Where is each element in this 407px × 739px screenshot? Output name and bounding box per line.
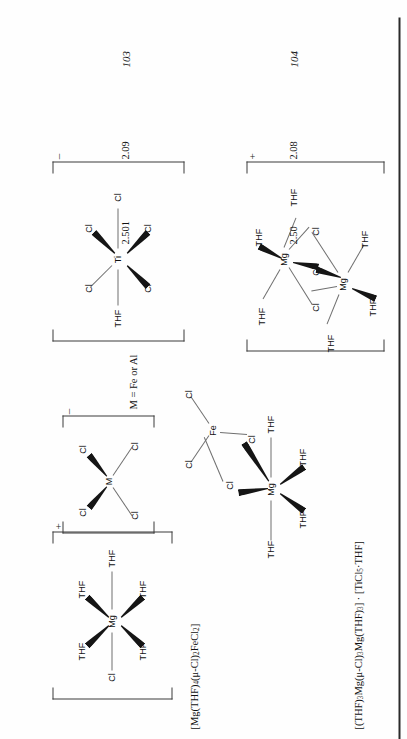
caption-compound-103: [Mg(THF)4(μ-Cl)2FeCl2] — [188, 623, 201, 729]
atom-thf-left-dimer-103: THF — [265, 540, 275, 558]
atom-cl-upper-right-103: Cl — [77, 445, 87, 454]
bond-fe-cl-terminal-left-103 — [190, 435, 209, 462]
atom-thf-right-dimer-103: THF — [265, 415, 275, 433]
bond-mgbottom-thf-left-104 — [326, 294, 339, 324]
atom-thf-bottom-down-104: THF — [367, 298, 377, 316]
bond-clbridge-right-fe-103 — [220, 432, 247, 435]
wedge-mgbottom-clb-104 — [315, 266, 342, 281]
atom-cl-lower-left-103: Cl — [129, 511, 139, 520]
bracket-left-anion-104 — [52, 329, 184, 341]
charge-minus-anion-104: – — [51, 153, 63, 159]
atom-cl-cation-103: Cl — [106, 673, 116, 682]
atom-cl-terminal-right-103: Cl — [183, 390, 193, 399]
atom-thf-axial-104: THF — [112, 309, 122, 327]
bond-ti-thf-axial-104 — [117, 269, 118, 305]
atom-cl-upper-left-103: Cl — [77, 508, 87, 517]
atom-cl-lower-right-104: Cl — [142, 224, 152, 233]
bond-mg-thf-left-dimer-103 — [270, 500, 271, 540]
rotated-page-canvas: + Mg Cl THF THF THF THF THF – M Cl Cl — [0, 0, 407, 739]
atom-cl-upper-right-104: Cl — [83, 224, 93, 233]
atom-thf-top-left-104: THF — [256, 307, 266, 325]
distance-104-1: 2.50 — [287, 226, 298, 244]
atom-thf-bottom-left-104: THF — [325, 334, 335, 352]
charge-plus-cation-104: + — [245, 153, 257, 159]
atom-cl-upper-left-104: Cl — [83, 284, 93, 293]
distance-104-2: 2.08 — [287, 141, 298, 159]
atom-thf-lower-right-dimer-103: THF — [297, 448, 307, 466]
page-bottom-rule — [398, 17, 400, 739]
atom-thf-lower-left-dimer-103: THF — [297, 510, 307, 528]
caption-103-text: [Mg(THF)4(μ-Cl)2FeCl2] — [188, 623, 199, 729]
atom-thf-upper-left-103: THF — [76, 642, 86, 660]
atom-cl-bridge-left-103: Cl — [224, 481, 234, 490]
wedge-mg-thf-lower-right-dimer-103 — [277, 464, 305, 487]
wedge-mgtop-clb-104 — [292, 259, 319, 270]
bond-clbridge-left-fe-103 — [203, 437, 223, 482]
compound-number-103: 103 — [119, 51, 131, 68]
distance-103-1: 2.501 — [119, 220, 130, 244]
atom-thf-lower-right-103: THF — [137, 580, 147, 598]
wedge-mg-clbridge-right-103 — [241, 441, 272, 483]
wedge-m-cl-upper-right-103 — [86, 452, 109, 478]
atom-thf-lower-left-103: THF — [137, 642, 147, 660]
bracket-right-cation-104 — [246, 161, 384, 173]
atom-cl-axial-104: Cl — [112, 193, 122, 202]
bracket-left-cation-103 — [52, 687, 172, 699]
wedge-mg-thf-upper-right-103 — [84, 594, 111, 620]
bracket-right-anion-103 — [62, 415, 154, 427]
figure-sheet: + Mg Cl THF THF THF THF THF – M Cl Cl — [0, 0, 407, 739]
note-m-identity: M = Fe or Al — [127, 354, 138, 409]
atom-thf-bottom-right-104: THF — [359, 230, 369, 248]
atom-ti-center-104: Ti — [112, 255, 122, 262]
atom-fe-dimer-103: Fe — [207, 425, 217, 436]
bond-fe-cl-terminal-right-103 — [190, 396, 209, 423]
atom-cl-lower-right-103: Cl — [129, 442, 139, 451]
bond-ti-cl-axial-104 — [117, 208, 118, 248]
wedge-ti-cl-ur-104 — [91, 229, 117, 255]
atom-cl-terminal-left-103: Cl — [183, 460, 193, 469]
caption-compound-104: [(THF)3Mg(μ-Cl)3Mg(THF)3] · [TiCl5·THF] — [352, 541, 365, 729]
caption-104-text: [(THF)3Mg(μ-Cl)3Mg(THF)3] · [TiCl5·THF] — [352, 541, 363, 729]
atom-thf-top-up-104: THF — [253, 228, 263, 246]
wedge-m-cl-upper-left-103 — [86, 484, 109, 510]
bond-mg-thf-right-dimer-103 — [270, 437, 271, 477]
charge-plus-cation-103: + — [51, 523, 63, 529]
atom-cl-lower-left-104: Cl — [142, 284, 152, 293]
bond-mg-thf-equatorial-cation-103 — [111, 571, 112, 609]
bracket-right-anion-104 — [52, 161, 184, 173]
atom-thf-upper-right-103: THF — [76, 580, 86, 598]
compound-number-104: 104 — [287, 51, 299, 68]
charge-minus-anion-103: – — [61, 408, 73, 414]
wedge-mg-thf-upper-left-103 — [84, 622, 111, 648]
wedge-mg-clbridge-left-103 — [237, 485, 268, 496]
atom-thf-top-right-104: THF — [288, 188, 298, 206]
distance-103-2: 2.09 — [119, 141, 130, 159]
bond-mgtop-thf-left-104 — [262, 269, 280, 299]
bracket-left-cation-104 — [246, 339, 384, 351]
bracket-left-anion-103 — [62, 521, 154, 533]
atom-thf-equatorial-cation-103: THF — [106, 549, 116, 567]
bond-mg-cl-cation-103 — [111, 632, 112, 670]
bond-mgtop-cla-104 — [288, 267, 312, 305]
bond-mgbottom-cla-104 — [311, 286, 337, 291]
